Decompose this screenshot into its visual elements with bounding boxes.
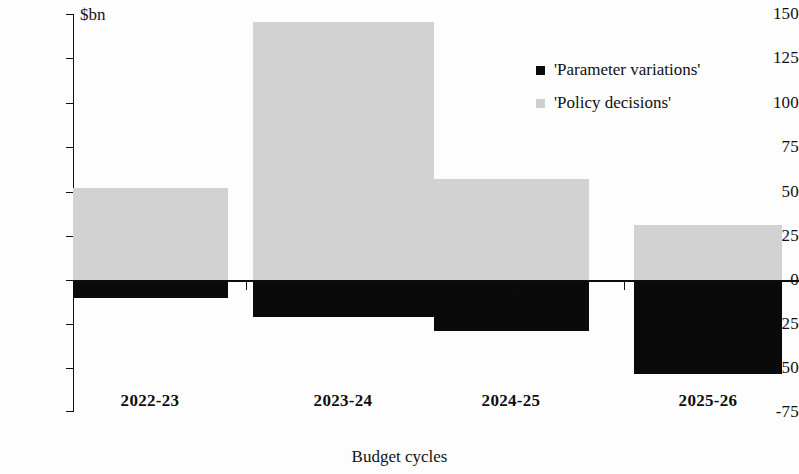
y-tick-neg75	[66, 411, 74, 412]
y-tick-label-50: 50	[743, 183, 799, 200]
bar-parameter-variations-2024-25	[434, 280, 589, 331]
bar-policy-decisions-2025-26	[634, 225, 782, 280]
y-axis-unit-label: $bn	[80, 6, 106, 24]
bar-policy-decisions-2024-25	[434, 179, 589, 280]
y-tick-100	[66, 103, 74, 104]
y-tick-label-150: 150	[743, 5, 799, 22]
x-tick-1	[246, 282, 247, 290]
legend-swatch-icon-light	[536, 99, 545, 108]
plot-area: 150 125 100 75 50 25 0 -25 -50 -75 $bn 2…	[0, 0, 799, 474]
y-tick-label-75: 75	[743, 138, 799, 155]
y-tick-label-100: 100	[743, 94, 799, 111]
y-tick-neg50	[66, 368, 74, 369]
x-tick-2	[514, 282, 515, 290]
y-tick-75	[66, 147, 74, 148]
x-category-label-2024-25: 2024-25	[451, 392, 571, 410]
x-category-label-2022-23: 2022-23	[90, 392, 210, 410]
y-tick-125	[66, 58, 74, 59]
x-category-label-2025-26: 2025-26	[648, 392, 768, 410]
y-tick-label-125: 125	[743, 49, 799, 66]
x-tick-3	[624, 282, 625, 290]
zero-baseline	[73, 280, 799, 282]
x-axis-title: Budget cycles	[0, 448, 799, 466]
x-category-label-2023-24: 2023-24	[283, 392, 403, 410]
bar-parameter-variations-2022-23	[73, 280, 228, 298]
y-tick-neg25	[66, 324, 74, 325]
bar-policy-decisions-2023-24	[253, 22, 434, 280]
bar-policy-decisions-2022-23	[73, 188, 228, 280]
legend-swatch-icon-dark	[536, 66, 545, 75]
bar-parameter-variations-2023-24	[253, 280, 434, 317]
legend-label-policy-decisions: 'Policy decisions'	[554, 93, 671, 112]
bar-parameter-variations-2025-26	[634, 280, 782, 374]
legend-label-parameter-variations: 'Parameter variations'	[554, 60, 700, 79]
bar-chart: 150 125 100 75 50 25 0 -25 -50 -75 $bn 2…	[0, 0, 799, 474]
y-tick-150	[66, 14, 74, 15]
